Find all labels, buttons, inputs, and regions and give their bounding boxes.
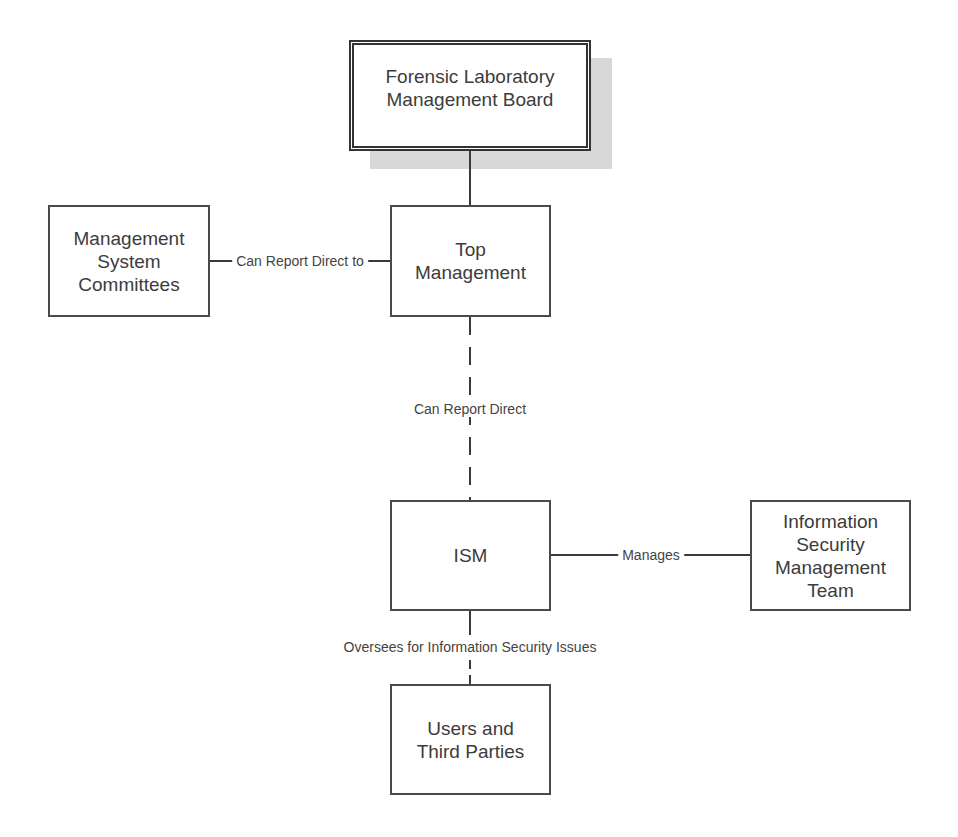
node-label: Users and Third Parties <box>417 717 525 763</box>
node-label: Information Security Management Team <box>775 510 886 602</box>
node-information-security-management-team: Information Security Management Team <box>750 500 911 611</box>
edge-ism-to-users-solid <box>469 611 471 635</box>
edge-label-oversees: Oversees for Information Security Issues <box>340 639 601 655</box>
node-label: ISM <box>454 544 488 567</box>
node-label: Top Management <box>415 238 526 284</box>
node-label: Forensic Laboratory Management Board <box>386 65 555 111</box>
node-label: Management System Committees <box>74 227 185 296</box>
node-ism: ISM <box>390 500 551 611</box>
edge-board-to-top <box>469 151 471 206</box>
edge-label-can-report-direct-to: Can Report Direct to <box>232 253 368 269</box>
edge-label-can-report-direct: Can Report Direct <box>410 401 530 417</box>
edge-ism-to-users-dashed <box>469 660 471 684</box>
node-top-management: Top Management <box>390 205 551 317</box>
node-management-board: Forensic Laboratory Management Board <box>349 40 591 151</box>
node-users-and-third-parties: Users and Third Parties <box>390 684 551 795</box>
node-management-system-committees: Management System Committees <box>48 205 210 317</box>
edge-label-manages: Manages <box>618 547 684 563</box>
